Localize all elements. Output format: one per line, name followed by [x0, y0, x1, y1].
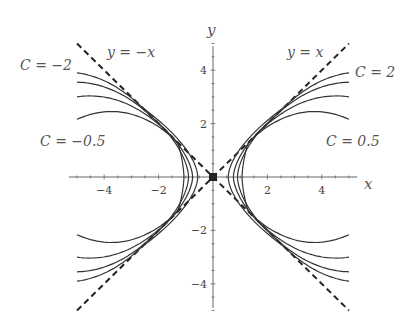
- x-tick-label: 2: [264, 184, 271, 197]
- y-tick-label: 4: [200, 64, 207, 77]
- y-axis-label: y: [206, 21, 216, 39]
- label-c-neg-2: C = −2: [20, 57, 72, 73]
- curve-branch: [77, 73, 198, 177]
- label-y-eq-x: y = x: [286, 44, 324, 60]
- chart-figure: −4−224−4−224 y x y = −x y = x C = −2 C =…: [0, 0, 403, 329]
- x-tick-label: −4: [96, 184, 112, 197]
- y-tick-label: 2: [200, 118, 207, 131]
- curve-branch: [228, 73, 349, 177]
- x-axis-label: x: [364, 175, 373, 193]
- y-tick-label: −4: [191, 278, 207, 291]
- label-c-neg-0-5: C = −0.5: [40, 133, 105, 149]
- x-tick-label: 4: [318, 184, 325, 197]
- curve-branch: [77, 177, 184, 243]
- y-tick-label: −2: [191, 224, 207, 237]
- label-y-neg-x: y = −x: [106, 44, 155, 60]
- x-tick-label: −2: [150, 184, 166, 197]
- curve-branch: [228, 177, 349, 281]
- curve-branch: [242, 177, 349, 243]
- origin-marker: [209, 173, 217, 181]
- plot-area: −4−224−4−224 y x y = −x y = x C = −2 C =…: [0, 0, 403, 329]
- label-c-2: C = 2: [355, 64, 395, 80]
- label-c-0-5: C = 0.5: [326, 133, 380, 149]
